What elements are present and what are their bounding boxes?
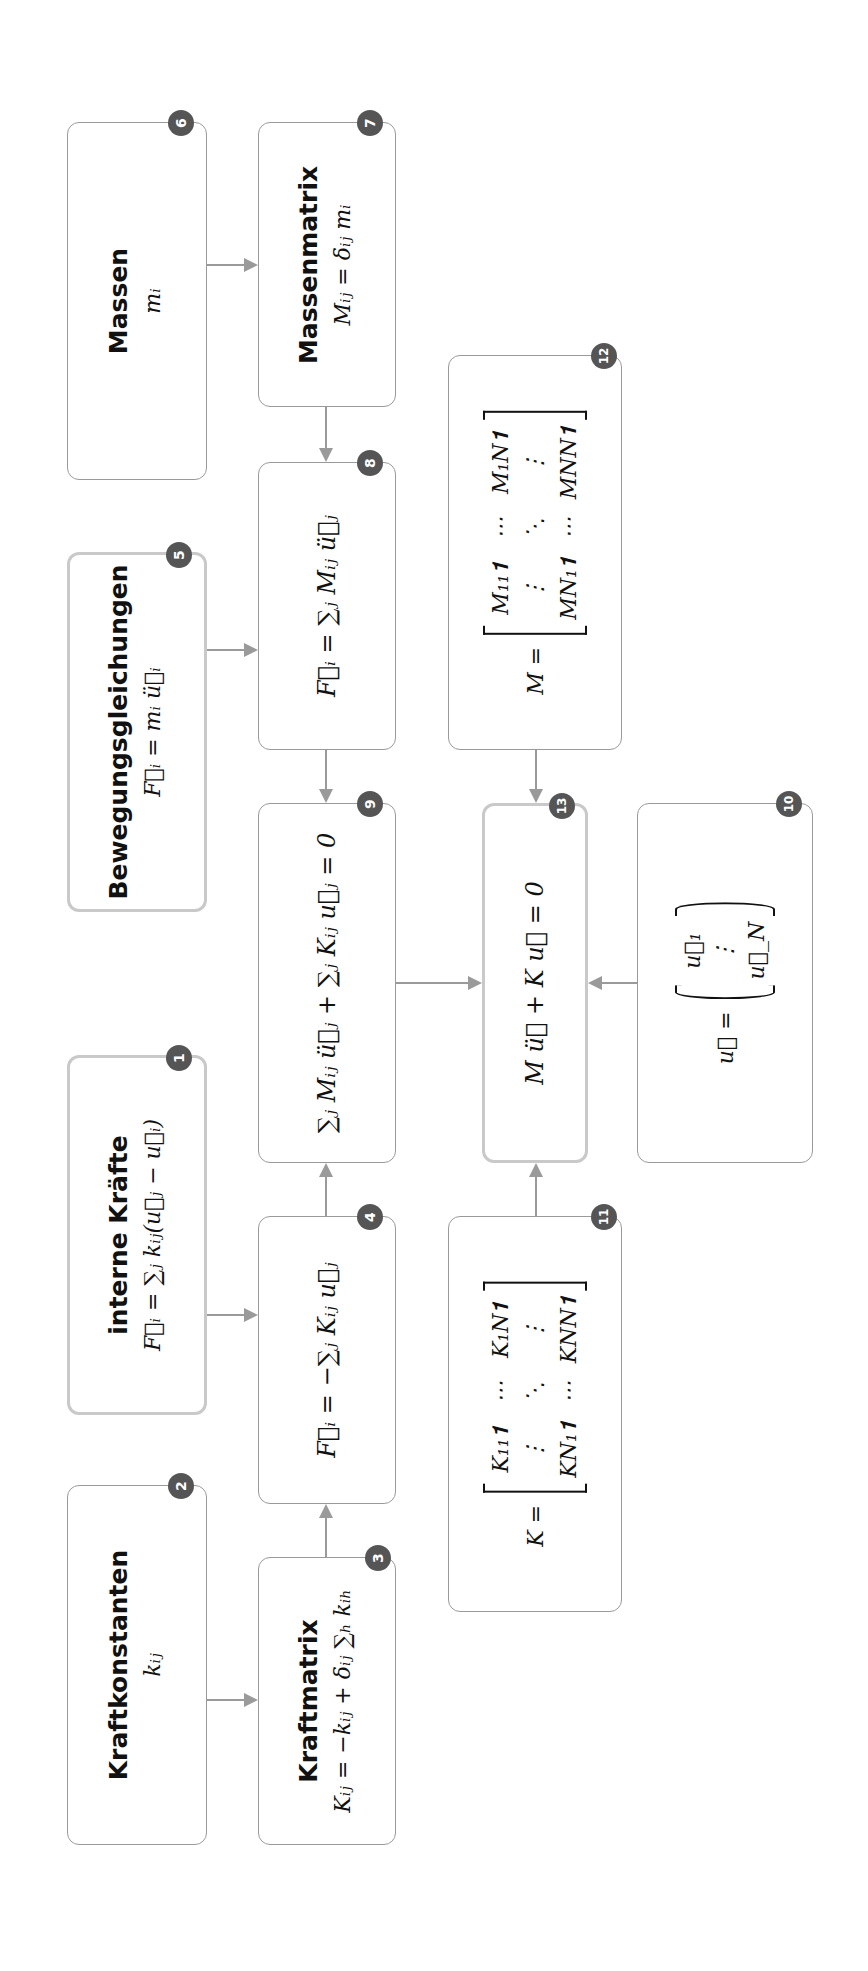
matrix-cell: ⋱ xyxy=(519,1381,551,1403)
step-badge: 2 xyxy=(168,1473,194,1499)
arrow-head-icon xyxy=(319,1163,333,1177)
node-kraftkonstanten: Kraftkonstanten kᵢⱼ 2 xyxy=(67,1485,207,1845)
arrow-head-icon xyxy=(319,1504,333,1518)
node-12-mass-matrix-block: M = M₁₁𝟏 ⋯ M₁N𝟏 ⋮ ⋱ ⋮ MN₁𝟏 ⋯ MNN𝟏 12 xyxy=(448,355,622,750)
right-bracket xyxy=(483,1281,587,1290)
node-title: Bewegungsgleichungen xyxy=(103,564,135,899)
node-11-stiffness-matrix-block: K = K₁₁𝟏 ⋯ K₁N𝟏 ⋮ ⋱ ⋮ KN₁𝟏 ⋯ KNN𝟏 11 xyxy=(448,1216,622,1612)
node-content: Massenmatrix Mᵢⱼ = δᵢⱼ mᵢ xyxy=(293,165,361,363)
matrix-cell: ⋯ xyxy=(485,1381,517,1403)
edge-10-13 xyxy=(602,982,637,984)
node-content: F⃗ᵢ = −∑ⱼ Kᵢⱼ u⃗ⱼ xyxy=(309,1262,345,1457)
left-bracket xyxy=(483,625,587,634)
right-bracket xyxy=(483,411,587,420)
node-bewegungsgleichungen: Bewegungsgleichungen F⃗ᵢ = mᵢ ü⃗ᵢ 5 xyxy=(67,552,207,912)
arrow-head-icon xyxy=(529,789,543,803)
node-content: K = K₁₁𝟏 ⋯ K₁N𝟏 ⋮ ⋱ ⋮ KN₁𝟏 ⋯ KNN𝟏 xyxy=(483,1281,587,1546)
matrix-cell: M₁₁𝟏 xyxy=(485,557,517,620)
arrow-head-icon xyxy=(588,976,602,990)
matrix-cell: ⋮ xyxy=(519,1421,551,1478)
matrix-lhs: M = xyxy=(523,646,548,694)
vector-lhs: u⃗ = xyxy=(713,1011,738,1064)
matrix-cell: ⋯ xyxy=(485,517,517,539)
step-badge: 5 xyxy=(166,542,192,568)
left-bracket xyxy=(483,1484,587,1493)
step-badge: 13 xyxy=(549,793,575,819)
step-badge: 11 xyxy=(591,1204,617,1230)
step-badge: 7 xyxy=(357,110,383,136)
arrow-head-icon xyxy=(529,1163,543,1177)
arrow-head-icon xyxy=(468,976,482,990)
node-content: M ü⃗ + K u⃗ = 0 xyxy=(517,881,553,1084)
matrix-cell: MN₁𝟏 xyxy=(553,557,585,620)
matrix-cell: ⋯ xyxy=(553,1381,585,1403)
node-title: Massenmatrix xyxy=(293,165,325,363)
arrow-head-icon xyxy=(244,1308,258,1322)
matrix-cell: ⋯ xyxy=(553,517,585,539)
node-4-force-stiffness: F⃗ᵢ = −∑ⱼ Kᵢⱼ u⃗ⱼ 4 xyxy=(258,1216,396,1504)
step-badge: 6 xyxy=(168,110,194,136)
node-content: Massen mᵢ xyxy=(103,248,171,354)
matrix-cell: MNN𝟏 xyxy=(553,426,585,499)
edge-11-13 xyxy=(535,1177,537,1216)
matrix-grid: K₁₁𝟏 ⋯ K₁N𝟏 ⋮ ⋱ ⋮ KN₁𝟏 ⋯ KNN𝟏 xyxy=(485,1290,585,1483)
matrix-lhs: K = xyxy=(523,1505,548,1547)
node-content: M = M₁₁𝟏 ⋯ M₁N𝟏 ⋮ ⋱ ⋮ MN₁𝟏 ⋯ MNN𝟏 xyxy=(483,411,587,695)
matrix-cell: ⋮ xyxy=(519,1296,551,1363)
matrix-cell: KNN𝟏 xyxy=(553,1296,585,1363)
step-badge: 9 xyxy=(357,791,383,817)
node-content: u⃗ = u⃗₁ ⋮ u⃗_N xyxy=(675,902,775,1064)
node-title: Kraftkonstanten xyxy=(103,1550,135,1781)
matrix-cell: KN₁𝟏 xyxy=(553,1421,585,1478)
matrix-cell: K₁₁𝟏 xyxy=(485,1421,517,1478)
edge-12-13 xyxy=(535,750,537,789)
step-badge: 4 xyxy=(357,1204,383,1230)
node-title: Kraftmatrix xyxy=(293,1589,325,1812)
node-content: interne Kräfte F⃗ᵢ = ∑ⱼ kᵢⱼ(u⃗ⱼ − u⃗ᵢ) xyxy=(103,1119,171,1351)
matrix-cell: ⋮ xyxy=(519,426,551,499)
matrix-cell: M₁N𝟏 xyxy=(485,426,517,499)
edge-8-9 xyxy=(325,750,327,789)
node-content: Bewegungsgleichungen F⃗ᵢ = mᵢ ü⃗ᵢ xyxy=(103,564,171,899)
edge-3-4 xyxy=(325,1518,327,1557)
step-badge: 3 xyxy=(365,1545,391,1571)
step-badge: 10 xyxy=(776,791,802,817)
step-badge: 8 xyxy=(357,450,383,476)
node-title: interne Kräfte xyxy=(103,1119,135,1351)
vector-cell: u⃗₁ xyxy=(677,922,709,980)
step-badge: 12 xyxy=(591,343,617,369)
edge-2-3 xyxy=(207,1699,244,1701)
edge-7-8 xyxy=(325,407,327,448)
node-formula: Mᵢⱼ = δᵢⱼ mᵢ xyxy=(325,165,361,363)
node-content: Kraftkonstanten kᵢⱼ xyxy=(103,1550,171,1781)
node-content: ∑ⱼ Mᵢⱼ ü⃗ⱼ + ∑ⱼ Kᵢⱼ u⃗ⱼ = 0 xyxy=(309,833,345,1134)
node-massenmatrix: Massenmatrix Mᵢⱼ = δᵢⱼ mᵢ 7 xyxy=(258,122,396,407)
edge-6-7 xyxy=(207,264,244,266)
node-kraftmatrix: Kraftmatrix Kᵢⱼ = −kᵢⱼ + δᵢⱼ ∑ₕ kᵢₕ 3 xyxy=(258,1557,396,1845)
node-interne-kraefte: interne Kräfte F⃗ᵢ = ∑ⱼ kᵢⱼ(u⃗ⱼ − u⃗ᵢ) 1 xyxy=(67,1055,207,1415)
node-formula: F⃗ᵢ = ∑ⱼ Mᵢⱼ ü⃗ⱼ xyxy=(309,515,345,697)
node-formula: M ü⃗ + K u⃗ = 0 xyxy=(517,881,553,1084)
node-formula: F⃗ᵢ = mᵢ ü⃗ᵢ xyxy=(135,564,171,899)
edge-4-9 xyxy=(325,1177,327,1216)
matrix-cell: ⋮ xyxy=(519,557,551,620)
node-formula: ∑ⱼ Mᵢⱼ ü⃗ⱼ + ∑ⱼ Kᵢⱼ u⃗ⱼ = 0 xyxy=(309,833,345,1134)
vector-cell: u⃗_N xyxy=(741,922,773,980)
arrow-head-icon xyxy=(319,448,333,462)
node-content: F⃗ᵢ = ∑ⱼ Mᵢⱼ ü⃗ⱼ xyxy=(309,515,345,697)
right-paren xyxy=(675,902,775,916)
matrix-grid: M₁₁𝟏 ⋯ M₁N𝟏 ⋮ ⋱ ⋮ MN₁𝟏 ⋯ MNN𝟏 xyxy=(485,420,585,626)
node-9-combined-equation: ∑ⱼ Mᵢⱼ ü⃗ⱼ + ∑ⱼ Kᵢⱼ u⃗ⱼ = 0 9 xyxy=(258,803,396,1163)
node-13-equation-of-motion: M ü⃗ + K u⃗ = 0 13 xyxy=(482,803,588,1163)
node-formula: Kᵢⱼ = −kᵢⱼ + δᵢⱼ ∑ₕ kᵢₕ xyxy=(325,1589,361,1812)
arrow-head-icon xyxy=(244,643,258,657)
arrow-head-icon xyxy=(244,1693,258,1707)
node-10-displacement-vector: u⃗ = u⃗₁ ⋮ u⃗_N 10 xyxy=(637,803,813,1163)
matrix-cell: K₁N𝟏 xyxy=(485,1296,517,1363)
node-formula: kᵢⱼ xyxy=(135,1550,171,1781)
vector-cell: ⋮ xyxy=(709,922,741,980)
arrow-head-icon xyxy=(319,789,333,803)
node-formula: F⃗ᵢ = −∑ⱼ Kᵢⱼ u⃗ⱼ xyxy=(309,1262,345,1457)
node-formula: F⃗ᵢ = ∑ⱼ kᵢⱼ(u⃗ⱼ − u⃗ᵢ) xyxy=(135,1119,171,1351)
edge-1-4 xyxy=(207,1314,244,1316)
